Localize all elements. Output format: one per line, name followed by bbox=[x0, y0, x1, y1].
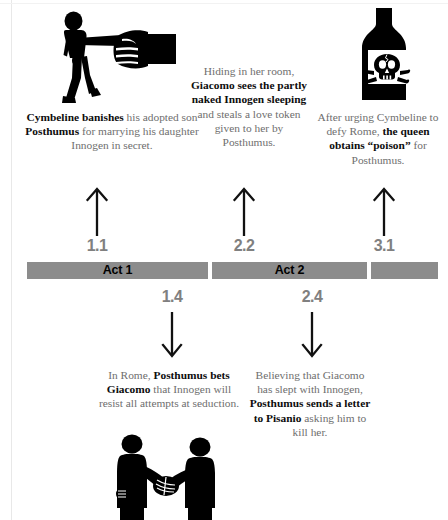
infographic-canvas: Cymbeline banishes his adopted son Posth… bbox=[0, 0, 448, 520]
caption-text-7: In Rome, bbox=[108, 369, 153, 381]
scene-number-1-1: 1.1 bbox=[77, 237, 117, 255]
arrow-up-3-1 bbox=[371, 186, 397, 240]
caption-text-10: asking him to kill her. bbox=[293, 412, 367, 438]
page-margin-rule bbox=[11, 0, 12, 520]
caption-text-1: his adopted son bbox=[124, 111, 198, 123]
caption-text-3: Hiding in her room, bbox=[204, 65, 294, 77]
act-segment-3[interactable] bbox=[371, 262, 438, 279]
caption-text-2: for marrying his daughter Innogen in sec… bbox=[71, 125, 198, 151]
arrow-down-1-4 bbox=[159, 312, 185, 362]
arrow-down-2-4 bbox=[299, 312, 325, 362]
handshake-two-men-icon bbox=[106, 434, 226, 520]
banished-man-pointing-hand-icon bbox=[48, 8, 176, 108]
arrow-up-1-1 bbox=[84, 186, 110, 240]
caption-text-4: and steals a love token given to her by … bbox=[197, 108, 300, 148]
page-top-rule bbox=[0, 3, 448, 4]
scene-number-2-4: 2.4 bbox=[292, 288, 332, 306]
caption-bold-3: Giacomo sees the partly naked Innogen sl… bbox=[191, 79, 307, 105]
panel-caption-2-4: Believing that Giacomo has slept with In… bbox=[248, 368, 372, 439]
arrow-up-2-2 bbox=[231, 186, 257, 240]
caption-bold-2: Posthumus bbox=[25, 125, 79, 137]
panel-caption-3-1: After urging Cymbeline to defy Rome, the… bbox=[312, 110, 444, 167]
act-timeline-bar: Act 1 Act 2 bbox=[27, 262, 438, 279]
act-segment-1[interactable]: Act 1 bbox=[27, 262, 208, 279]
act-segment-2[interactable]: Act 2 bbox=[212, 262, 367, 279]
panel-caption-1-4: In Rome, Posthumus bets Giacomo that Inn… bbox=[98, 368, 240, 411]
poison-bottle-skull-icon bbox=[352, 8, 418, 100]
caption-bold-1: Cymbeline banishes bbox=[27, 111, 124, 123]
scene-number-2-2: 2.2 bbox=[224, 237, 264, 255]
panel-caption-1-1: Cymbeline banishes his adopted son Posth… bbox=[14, 110, 210, 153]
panel-caption-2-2: Hiding in her room, Giacomo sees the par… bbox=[190, 64, 308, 149]
scene-number-3-1: 3.1 bbox=[364, 237, 404, 255]
scene-number-1-4: 1.4 bbox=[152, 288, 192, 306]
caption-text-9: Believing that Giacomo has slept with In… bbox=[256, 369, 365, 395]
